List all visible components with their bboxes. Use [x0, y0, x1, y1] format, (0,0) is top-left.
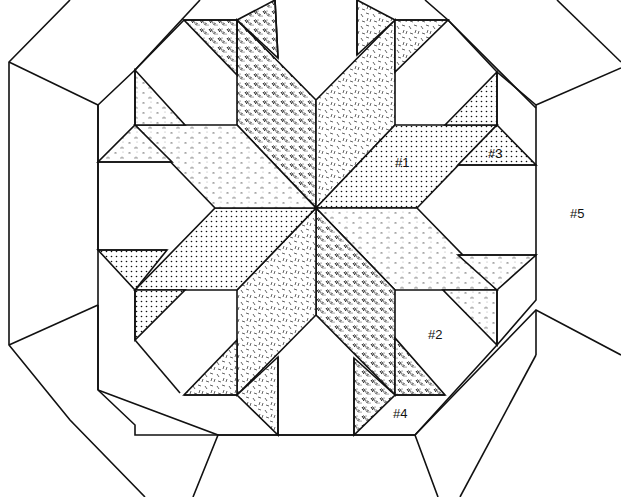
label-piece-1: #1 — [395, 155, 409, 170]
tip-bottom-right-dashes — [395, 338, 445, 395]
tip-right-up-dots — [445, 72, 497, 125]
label-piece-5: #5 — [570, 206, 584, 221]
label-piece-2: #2 — [428, 327, 442, 342]
tip-left-down-tri — [135, 290, 185, 340]
tip-right-down-tri — [443, 290, 497, 345]
label-piece-4: #4 — [393, 406, 407, 421]
label-piece-3: #3 — [488, 146, 502, 161]
tip-bottom-left-scribble — [184, 340, 237, 395]
tip-top-left-tri — [184, 20, 237, 75]
tip-left-up-mist — [135, 70, 185, 125]
tip-top-right-tri — [395, 20, 448, 72]
star-diamonds — [135, 20, 497, 395]
quilt-diagram — [0, 0, 621, 497]
